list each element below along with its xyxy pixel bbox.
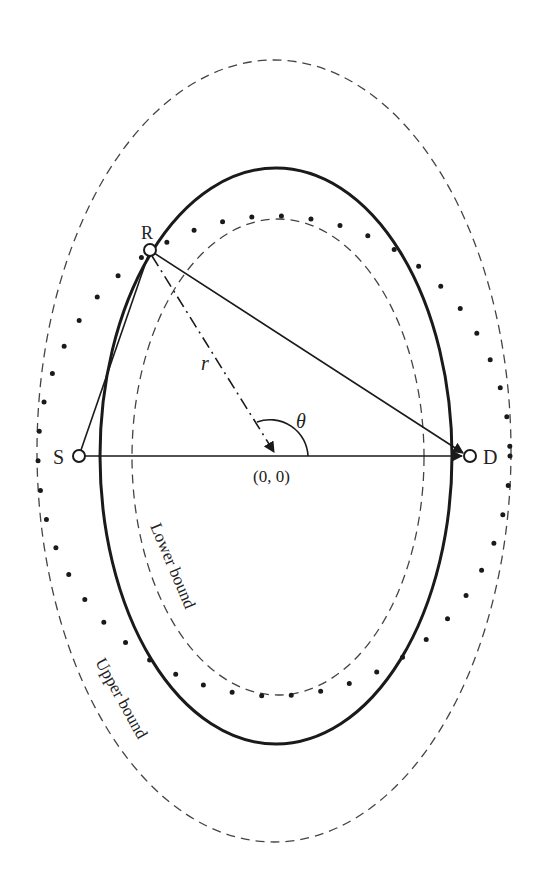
destination-node: [464, 450, 476, 462]
origin-label: (0, 0): [253, 467, 290, 486]
upper-bound-label: Upper bound: [92, 655, 152, 743]
radius-label: r: [201, 352, 209, 374]
relay-node: [144, 244, 156, 256]
lower-bound-ellipse: [132, 219, 424, 695]
upper-bound-ellipse: [37, 60, 511, 842]
lower-bound-label: Lower bound: [146, 520, 199, 612]
angle-label: θ: [296, 410, 306, 432]
relay-region-diagram: S D R r θ (0, 0) Lower bound Upper bound: [0, 0, 548, 877]
source-relay-link: [81, 256, 148, 450]
destination-label: D: [483, 446, 497, 468]
source-label: S: [53, 446, 64, 468]
relay-label: R: [141, 223, 153, 243]
source-node: [73, 450, 85, 462]
radius-line: [152, 256, 274, 452]
